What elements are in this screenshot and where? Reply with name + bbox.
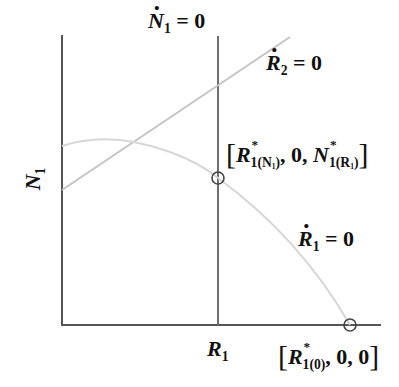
eqb-r-star: * — [304, 340, 311, 353]
n1-isocline-label: N1 = 0 — [148, 10, 205, 32]
eq-r-subscript: 1(N1) — [251, 155, 281, 170]
eqb-r-var: R — [288, 344, 303, 369]
y-axis-var: N — [20, 174, 45, 190]
n1-sub: 1 — [164, 21, 171, 36]
eq-r-sub-index: 1 — [272, 162, 276, 171]
bracket-open: [ — [278, 340, 288, 372]
eqb-rest: , 0, 0 — [325, 344, 369, 369]
r2-sub: 2 — [281, 63, 288, 78]
eq-mid: , 0, — [280, 142, 313, 167]
eq-n-var: N — [313, 142, 329, 167]
bracket-close: ] — [358, 138, 368, 170]
n1-var: N — [148, 8, 164, 33]
equilibrium-boundary-label: [R*1(0), 0, 0] — [278, 340, 379, 370]
equilibrium-interior-label: [R*1(N1), 0, N*1(R1)] — [226, 138, 368, 168]
eq-n-star: * — [330, 138, 337, 151]
eq-n-sub-text: 1(R — [329, 155, 350, 170]
x-axis-sub: 1 — [222, 349, 229, 364]
eq-r-var: R — [236, 142, 251, 167]
eq-n-subscript: 1(R1) — [329, 155, 359, 170]
n1-eq: = 0 — [171, 8, 206, 33]
bracket-close: ] — [369, 340, 379, 372]
eq-n-sub-index: 1 — [350, 162, 354, 171]
eq-r-star: * — [252, 138, 259, 151]
y-axis-sub: 1 — [33, 168, 48, 175]
y-axis-label: N1 — [22, 168, 44, 191]
eq-r-sub-close: ) — [276, 155, 281, 170]
r1-var: R — [298, 226, 313, 251]
eq-r-sub-text: 1(N — [251, 155, 272, 170]
x-axis-var: R — [207, 336, 222, 361]
r1-eq: = 0 — [320, 226, 355, 251]
x-axis-label: R1 — [207, 338, 229, 360]
r2-isocline-label: R2 = 0 — [266, 52, 322, 74]
r1-isocline-label: R1 = 0 — [298, 228, 354, 250]
r2-eq: = 0 — [288, 50, 323, 75]
bracket-open: [ — [226, 138, 236, 170]
eqb-r-sub: 1(0) — [303, 357, 326, 372]
r1-sub: 1 — [313, 239, 320, 254]
r2-var: R — [266, 50, 281, 75]
phase-plane — [0, 0, 399, 387]
